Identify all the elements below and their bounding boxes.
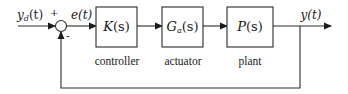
summing-circle <box>56 21 67 32</box>
controller-tf: K(s) <box>102 19 130 34</box>
plant-tf: P(s) <box>236 19 263 34</box>
actuator-caption: actuator <box>164 55 201 67</box>
summing-junction: + - <box>50 7 70 43</box>
plant-caption: plant <box>239 55 263 68</box>
minus-sign: - <box>66 30 70 43</box>
error-label: e(t) <box>71 8 93 22</box>
block-diagram: yd(t) + - e(t) K(s) controller Ga(s) act… <box>0 0 348 94</box>
actuator-tf: Ga(s) <box>167 19 199 35</box>
controller-caption: controller <box>95 55 140 67</box>
output-label: y(t) <box>300 8 322 22</box>
plus-sign: + <box>50 7 58 18</box>
plant-block: P(s) plant <box>227 7 273 68</box>
output-signal: y(t) <box>273 8 331 26</box>
error-signal: e(t) <box>67 8 97 26</box>
controller-block: K(s) controller <box>95 7 140 67</box>
input-label: yd(t) <box>16 8 43 23</box>
actuator-block: Ga(s) actuator <box>162 7 203 67</box>
